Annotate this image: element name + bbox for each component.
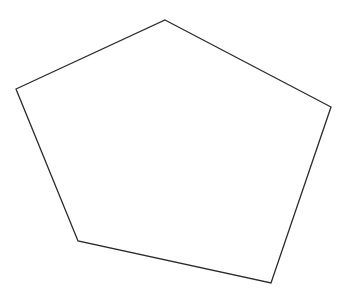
diagram-canvas [0,0,348,304]
pentagon-shape [16,20,331,283]
